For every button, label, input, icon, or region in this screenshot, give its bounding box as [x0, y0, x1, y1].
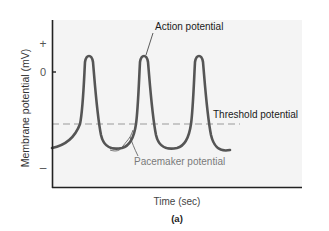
action-potential-label: Action potential: [155, 21, 223, 32]
pacemaker-potential-diagram: + 0 – Membrane potential (mV) Action pot…: [0, 0, 329, 231]
y-tick-minus: –: [40, 161, 47, 175]
y-tick-zero: 0: [40, 66, 46, 78]
y-axis-label: Membrane potential (mV): [19, 49, 31, 167]
panel-label: (a): [171, 213, 183, 224]
x-axis-label: Time (sec): [154, 196, 201, 207]
threshold-potential-label: Threshold potential: [213, 109, 298, 120]
y-tick-plus: +: [39, 37, 46, 51]
pacemaker-potential-label: Pacemaker potential: [134, 156, 225, 167]
